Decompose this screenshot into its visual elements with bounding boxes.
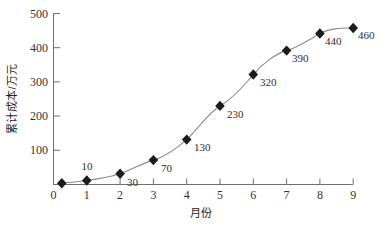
data-label-320: 320 (260, 76, 277, 88)
y-tick-label-500: 500 (30, 7, 48, 21)
x-tick-label-0: 0 (51, 188, 57, 202)
data-label-10: 10 (82, 160, 94, 172)
data-label-70: 70 (161, 162, 173, 174)
x-axis-title: 月份 (190, 207, 212, 219)
x-tick-label-6: 6 (250, 188, 256, 202)
x-tick-label-2: 2 (117, 188, 123, 202)
y-axis-title: 累计成本/万元 (5, 64, 18, 133)
y-tick-label-100: 100 (30, 143, 48, 157)
x-tick-label-1: 1 (84, 188, 90, 202)
data-label-460: 460 (358, 29, 375, 41)
x-tick-label-5: 5 (217, 188, 223, 202)
y-tick-label-300: 300 (30, 75, 48, 89)
data-label-30: 30 (127, 176, 139, 188)
line-chart-svg: 500 400 300 200 100 0 1 2 3 4 5 6 (0, 0, 380, 234)
data-label-440: 440 (325, 35, 342, 47)
x-tick-label-3: 3 (150, 188, 156, 202)
y-tick-label-400: 400 (30, 41, 48, 55)
data-label-130: 130 (194, 141, 211, 153)
x-tick-label-8: 8 (317, 188, 323, 202)
data-label-390: 390 (292, 52, 309, 64)
y-tick-label-200: 200 (30, 109, 48, 123)
chart-figure: 500 400 300 200 100 0 1 2 3 4 5 6 (0, 0, 380, 234)
x-tick-label-9: 9 (350, 188, 356, 202)
x-tick-label-4: 4 (184, 188, 190, 202)
data-label-230: 230 (227, 108, 244, 120)
x-tick-label-7: 7 (284, 188, 290, 202)
